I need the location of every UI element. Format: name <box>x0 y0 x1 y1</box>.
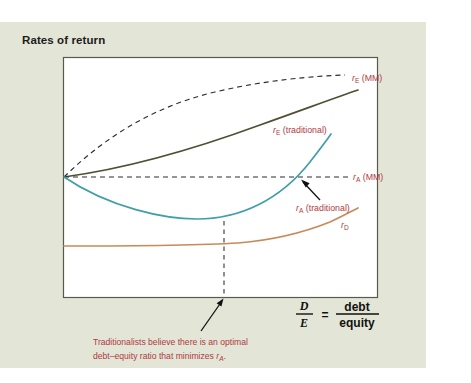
formula-numerator-debt: debt <box>344 300 369 314</box>
figure-panel: Rates of return rE (MM) r <box>0 22 426 368</box>
label-ra-traditional: rA (traditional) <box>296 203 350 214</box>
formula-equals: = <box>321 308 328 322</box>
formula-denominator-de: E <box>299 316 308 330</box>
label-re-mm-suffix: (MM) <box>359 73 382 83</box>
label-re-trad-suffix: (traditional) <box>280 125 327 135</box>
annotation-arrow-to-optimum <box>201 299 224 332</box>
annotation-line-2: debt–equity ratio that minimizes rA. <box>93 351 226 362</box>
annotation-line-1: Traditionalists believe there is an opti… <box>93 337 248 347</box>
label-rd-sub: D <box>344 224 349 231</box>
formula-numerator-de: D <box>299 299 309 313</box>
annotation-line-2-pre: debt–equity ratio that minimizes <box>93 351 216 361</box>
annotation-line-2-end: . <box>224 351 226 361</box>
x-axis-formula: D E = debt equity <box>296 299 379 330</box>
chart-canvas: rE (MM) rE (traditional) rA (MM) rA (tra… <box>0 22 426 368</box>
formula-denominator-equity: equity <box>339 316 375 330</box>
label-ra-trad-suffix: (traditional) <box>303 203 350 213</box>
label-re-traditional: rE (traditional) <box>273 125 327 136</box>
label-ra-mm-suffix: (MM) <box>360 172 383 182</box>
